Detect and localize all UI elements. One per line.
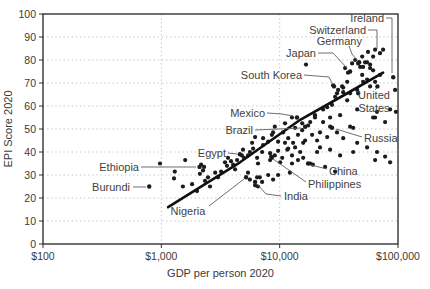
country-label: Germany [317,35,363,47]
country-point [253,180,257,184]
country-label: Philippines [308,178,362,190]
data-point [368,84,372,88]
chart-figure: 0102030405060708090100$100$1,000$10,000$… [0,0,430,289]
data-point [355,141,359,145]
data-point [208,184,212,188]
data-point [276,140,280,144]
data-point [183,158,187,162]
country-point [306,161,310,165]
data-point [255,156,259,160]
data-point [360,55,364,59]
data-point [246,171,250,175]
data-point [371,68,375,72]
data-point [394,110,398,114]
data-point [375,150,379,154]
data-point [296,158,300,162]
country-label: Ireland [350,12,384,24]
y-tick-label: 10 [24,215,36,227]
data-point [313,115,317,119]
leader-line [228,153,237,154]
country-point [197,165,201,169]
data-point [173,170,177,174]
data-point [381,48,385,52]
data-point [300,128,304,132]
data-point [261,136,265,140]
leader-line [349,46,357,60]
data-point [235,158,239,162]
data-point [260,180,264,184]
data-point [251,147,255,151]
y-tick-label: 70 [24,77,36,89]
data-point [233,167,237,171]
data-point [225,164,229,168]
data-point [371,55,375,59]
y-axis-title: EPI Score 2020 [2,90,14,167]
country-label: South Korea [241,69,303,81]
data-point [345,98,349,102]
data-point [345,80,349,84]
data-point [190,182,194,186]
data-point [206,175,210,179]
data-point [373,158,377,162]
data-point [256,161,260,165]
country-point [147,184,151,188]
data-point [365,145,369,149]
data-point [366,50,370,54]
data-point [293,145,297,149]
y-tick-label: 30 [24,169,36,181]
data-point [300,121,304,125]
data-point [341,86,345,90]
country-label: Russia [364,132,399,144]
country-point [375,84,379,88]
country-point [238,152,242,156]
leader-line [209,179,244,206]
y-tick-label: 20 [24,192,36,204]
country-label: Nigeria [171,205,207,217]
country-point [303,125,307,129]
data-point [338,113,342,117]
country-label: India [284,190,309,202]
y-tick-label: 80 [24,54,36,66]
country-label: Burundi [92,181,130,193]
data-point [273,125,277,129]
y-tick-label: 90 [24,31,36,43]
leader-line [267,113,293,116]
data-point [202,165,206,169]
data-point [304,63,308,67]
data-point [321,120,325,124]
data-point [328,115,332,119]
data-point [266,173,270,177]
data-point [351,150,355,154]
country-label: United [358,89,390,101]
y-tick-label: 50 [24,123,36,135]
data-point [248,178,252,182]
data-point [383,120,387,124]
leader-line [336,129,362,137]
leader-line [273,159,306,182]
data-point [271,178,275,182]
country-point [357,60,361,64]
data-point [198,172,202,176]
leader-line [257,184,281,196]
data-point [388,160,392,164]
data-point [361,65,365,69]
country-point [378,51,382,55]
data-point [253,135,257,139]
data-point [296,133,300,137]
data-point [298,150,302,154]
data-point [271,130,275,134]
data-point [393,88,397,92]
x-tick-label: $10,000 [261,250,299,262]
data-point [351,126,355,130]
data-point [373,80,377,84]
leader-line [386,18,392,73]
data-point [181,184,185,188]
country-point [330,126,334,130]
x-tick-label: $1,000 [145,250,177,262]
data-point [373,115,377,119]
data-point [276,149,280,153]
country-point [269,154,273,158]
data-point [290,153,294,157]
data-point [308,120,312,124]
data-point [318,130,322,134]
